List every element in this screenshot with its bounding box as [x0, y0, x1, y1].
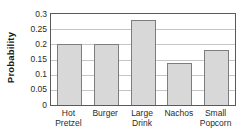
y-tick-label: 0.1 — [19, 69, 47, 79]
bar-hot-pretzel — [57, 44, 82, 105]
bar-nachos — [167, 63, 192, 105]
bar-burger — [94, 44, 119, 105]
bar-large-drink — [131, 20, 156, 105]
x-category-label: Hot Pretzel — [48, 109, 88, 128]
y-tick-label: 0.25 — [19, 24, 47, 34]
y-tick-label: 0.3 — [19, 9, 47, 19]
y-tick-label: 0 — [19, 100, 47, 110]
y-tick-label: 0.15 — [19, 54, 47, 64]
x-category-label: Small Popcorn — [196, 109, 236, 128]
bar-chart: Probability 00.050.10.150.20.250.3 Hot P… — [0, 0, 243, 140]
x-category-label: Nachos — [159, 109, 199, 119]
bar-small-popcorn — [204, 50, 229, 105]
x-category-label: Burger — [85, 109, 125, 119]
y-tick-label: 0.05 — [19, 84, 47, 94]
plot-area — [50, 13, 236, 106]
y-axis-title: Probability — [5, 12, 16, 104]
y-tick-label: 0.2 — [19, 39, 47, 49]
x-category-label: Large Drink — [122, 109, 162, 128]
